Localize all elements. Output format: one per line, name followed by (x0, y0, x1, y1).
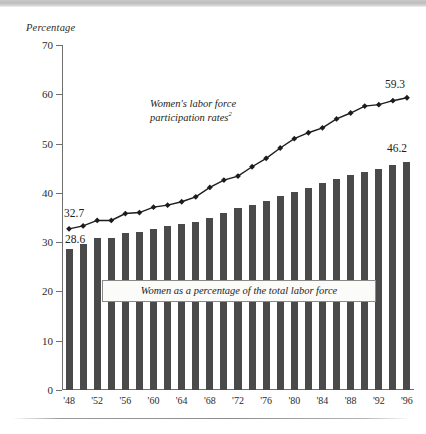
bar (66, 249, 73, 390)
line-marker (249, 164, 255, 170)
x-axis-tick-label: '56 (119, 395, 131, 406)
line-marker (277, 145, 283, 151)
y-axis-tick (56, 144, 62, 145)
line-marker (263, 155, 269, 161)
line-annotation-text-1: Women's labor force (150, 98, 236, 109)
x-axis-tick-label: '64 (176, 395, 188, 406)
line-marker (390, 98, 396, 104)
bar (94, 238, 101, 390)
line-marker (235, 173, 241, 179)
y-axis-tick-label: 30 (42, 236, 53, 248)
bar (206, 218, 213, 391)
y-axis-tick (56, 341, 62, 342)
bar (375, 169, 382, 390)
line-last-value-label: 59.3 (385, 78, 405, 90)
line-annotation-text-2: participation rates (150, 112, 228, 123)
x-axis-tick-label: '72 (232, 395, 244, 406)
chart-page: Percentage 010203040506070 '48'52'56'60'… (0, 0, 426, 434)
x-axis-tick-label: '80 (288, 395, 300, 406)
line-first-value-label: 32.7 (64, 207, 84, 219)
y-axis-tick (56, 390, 62, 391)
y-axis-tick-label: 50 (42, 138, 53, 150)
x-axis-tick-label: '52 (91, 395, 103, 406)
scan-top-band (0, 0, 426, 7)
line-marker (404, 95, 410, 101)
line-marker (291, 136, 297, 142)
x-axis-tick-label: '88 (345, 395, 357, 406)
bar-callout-text: Women as a percentage of the total labor… (141, 285, 338, 296)
bar (178, 224, 185, 390)
x-axis-tick-label: '60 (148, 395, 160, 406)
scan-bottom-rule (12, 418, 412, 419)
x-axis-tick-label: '84 (317, 395, 329, 406)
line-annotation-superscript: 2 (228, 110, 231, 117)
line-marker (306, 130, 312, 136)
line-marker (376, 102, 382, 108)
bar (80, 244, 87, 390)
bar (108, 238, 115, 390)
line-marker (137, 210, 143, 216)
line-marker (94, 218, 100, 224)
line-marker (362, 103, 368, 109)
y-axis-tick (56, 193, 62, 194)
bar (192, 222, 199, 390)
bar (122, 233, 129, 390)
line-marker (108, 218, 114, 224)
line-marker (334, 116, 340, 122)
line-series-annotation: Women's labor force participation rates2 (150, 97, 236, 124)
line-marker (80, 223, 86, 229)
plot-area: 010203040506070 '48'52'56'60'64'68'72'76… (62, 45, 414, 390)
line-marker (207, 185, 213, 191)
y-axis-tick (56, 242, 62, 243)
x-axis-tick-label: '68 (204, 395, 216, 406)
bar-series-callout: Women as a percentage of the total labor… (102, 280, 376, 302)
y-axis-title: Percentage (26, 22, 75, 33)
line-marker (179, 199, 185, 205)
y-axis-tick-label: 40 (42, 187, 53, 199)
x-axis-tick-label: '48 (63, 395, 75, 406)
line-marker (66, 226, 72, 232)
y-axis-tick-label: 20 (42, 285, 53, 297)
bar-last-value-label: 46.2 (387, 142, 407, 154)
line-marker (193, 194, 199, 200)
y-axis-tick-label: 0 (48, 384, 54, 396)
bar (136, 232, 143, 390)
line-marker (320, 125, 326, 131)
line-marker (221, 177, 227, 183)
y-axis-tick (56, 45, 62, 46)
y-axis-tick-label: 10 (42, 335, 53, 347)
bar (389, 165, 396, 390)
bar (164, 226, 171, 390)
bar (150, 229, 157, 390)
y-axis-line (62, 45, 63, 390)
line-marker (348, 110, 354, 116)
bar-first-value-label: 28.6 (65, 233, 85, 245)
line-marker (151, 204, 157, 210)
y-axis-tick (56, 291, 62, 292)
x-axis-tick-label: '76 (260, 395, 272, 406)
y-axis-tick-label: 60 (42, 88, 53, 100)
line-marker (165, 202, 171, 208)
x-axis-tick-label: '92 (373, 395, 385, 406)
line-marker (122, 211, 128, 217)
y-axis-tick (56, 94, 62, 95)
x-axis-tick-label: '96 (401, 395, 413, 406)
bar (403, 162, 410, 390)
y-axis-tick-label: 70 (42, 39, 53, 51)
